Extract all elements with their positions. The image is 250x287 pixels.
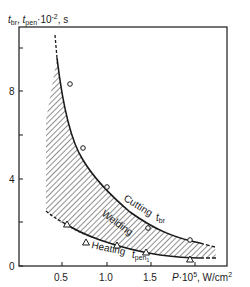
chart: 0 4 8 0.5 1.0 1.5 P·105, W/cm2 tbr, tpen… <box>0 0 250 287</box>
circle-marker <box>188 238 193 243</box>
x-tick-label-0.5: 0.5 <box>54 272 68 283</box>
tbr-label: tbr <box>156 212 166 224</box>
circle-marker <box>68 82 73 87</box>
y-tick-label-4: 4 <box>9 174 15 185</box>
circle-marker <box>146 226 151 231</box>
y-tick-label-8: 8 <box>9 86 15 97</box>
x-tick-label-1.0: 1.0 <box>99 272 113 283</box>
y-axis-label: tbr, tpen·10-2, s <box>8 13 68 27</box>
tbr-curve-dashed-top <box>55 35 57 58</box>
circle-marker <box>81 146 86 151</box>
circle-marker <box>105 185 110 190</box>
triangle-marker <box>83 239 90 245</box>
y-tick-label-0: 0 <box>9 261 15 272</box>
x-axis-ticks <box>62 262 195 266</box>
x-tick-label-1.5: 1.5 <box>143 272 157 283</box>
x-axis-label: P·105, W/cm2 <box>172 271 232 283</box>
